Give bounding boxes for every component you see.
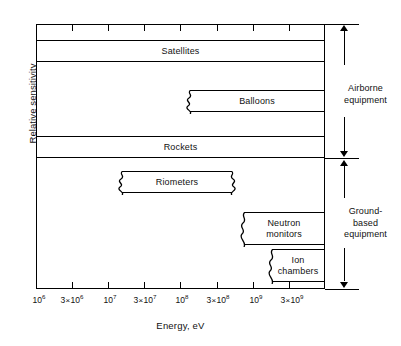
bottom-tick-9 — [324, 282, 325, 289]
break-wave-icon-riometers-left — [117, 171, 126, 195]
x-tick-label-7: 3×109 — [281, 295, 304, 305]
bottom-tick-5 — [180, 282, 181, 289]
top-tick-5 — [180, 24, 181, 31]
top-tick-1 — [36, 24, 37, 31]
bar-satellites: Satellites — [36, 40, 325, 62]
x-tick-label-6: 109 — [250, 295, 263, 305]
bar-balloons: Balloons — [190, 90, 325, 112]
bracket-stem-ground-lower — [344, 248, 345, 281]
break-wave-icon-neutron-monitors — [239, 212, 248, 247]
bracket-rule-middle — [325, 158, 359, 159]
x-tick-label-3: 3×107 — [134, 295, 157, 305]
bar-label-riometers: Riometers — [153, 177, 201, 188]
bottom-tick-2 — [72, 282, 73, 289]
top-tick-4 — [144, 24, 145, 31]
bar-label-satellites: Satellites — [158, 46, 202, 57]
figure-canvas: Relative sensitivity 106 3×106 107 3×107… — [0, 0, 401, 346]
bottom-tick-4 — [144, 282, 145, 289]
top-tick-6 — [217, 24, 218, 31]
bracket-stem-airborne-lower — [344, 117, 345, 152]
bottom-tick-7 — [253, 282, 254, 289]
bar-label-ion-chambers: Ion chambers — [275, 255, 322, 277]
x-tick-label-4: 108 — [176, 295, 189, 305]
bottom-tick-1 — [36, 282, 37, 289]
bracket-rule-bottom — [325, 289, 359, 290]
x-tick-label-1: 3×106 — [61, 295, 84, 305]
x-tick-label-2: 107 — [104, 295, 117, 305]
bracket-arrow-ground-down — [340, 282, 348, 288]
top-tick-2 — [72, 24, 73, 31]
bracket-label-airborne: Airborne equipment — [330, 83, 401, 106]
bracket-stem-ground-upper — [344, 164, 345, 198]
bracket-label-ground-based: Ground- based equipment — [330, 206, 401, 241]
top-tick-7 — [253, 24, 254, 31]
bar-rockets: Rockets — [36, 136, 325, 158]
bottom-tick-8 — [289, 282, 290, 289]
top-tick-8 — [289, 24, 290, 31]
bar-riometers: Riometers — [122, 171, 232, 193]
break-wave-icon-balloons — [185, 90, 194, 114]
x-tick-label-5: 3×108 — [207, 295, 230, 305]
x-tick-label-0: 106 — [33, 295, 46, 305]
top-tick-3 — [108, 24, 109, 31]
bar-neutron-monitors: Neutron monitors — [244, 212, 325, 245]
bar-label-rockets: Rockets — [161, 142, 201, 153]
bracket-arrow-airborne-down — [340, 151, 348, 157]
bracket-stem-airborne-upper — [344, 29, 345, 65]
bottom-tick-6 — [217, 282, 218, 289]
bar-label-neutron-monitors: Neutron monitors — [263, 218, 305, 240]
bar-label-balloons: Balloons — [236, 96, 278, 107]
bottom-tick-3 — [108, 282, 109, 289]
bar-ion-chambers: Ion chambers — [272, 249, 325, 282]
break-wave-icon-riometers-right — [227, 171, 236, 195]
x-axis-title: Energy, eV — [36, 320, 325, 331]
